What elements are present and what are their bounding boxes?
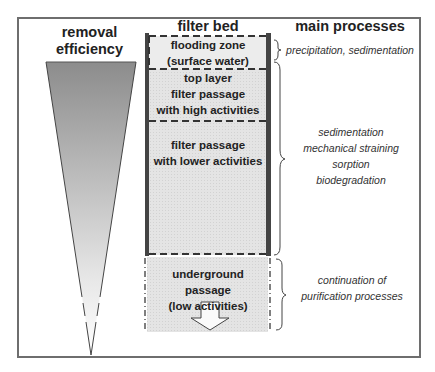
zone-line: flooding zone bbox=[150, 37, 266, 53]
process-filter: sedimentation mechanical straining sorpt… bbox=[284, 124, 418, 188]
process-underground: continuation of purification processes bbox=[286, 272, 418, 304]
zone-line: filter passage bbox=[150, 137, 266, 153]
process-line: sorption bbox=[284, 156, 418, 172]
header-main-processes: main processes bbox=[282, 18, 418, 35]
zone-line: filter passage bbox=[150, 86, 266, 102]
zone-line: (surface water) bbox=[150, 53, 266, 69]
zone-line: top layer bbox=[150, 70, 266, 86]
zone-lower-activities: filter passage with lower activities bbox=[150, 137, 266, 169]
header-filter-bed: filter bed bbox=[148, 18, 268, 35]
process-line: purification processes bbox=[286, 288, 418, 304]
header-line: removal bbox=[22, 24, 157, 41]
process-line: biodegradation bbox=[284, 172, 418, 188]
process-line: mechanical straining bbox=[284, 140, 418, 156]
zone-line: underground passage bbox=[150, 266, 266, 298]
zone-underground: underground passage (low activities) bbox=[150, 266, 266, 314]
process-line: continuation of bbox=[286, 272, 418, 288]
header-line: efficiency bbox=[22, 41, 157, 58]
zone-top-layer: top layer filter passage with high activ… bbox=[150, 70, 266, 118]
header-removal-efficiency: removal efficiency bbox=[22, 24, 157, 58]
zone-flooding: flooding zone (surface water) bbox=[150, 37, 266, 69]
process-line: sedimentation bbox=[284, 124, 418, 140]
zone-line: with high activities bbox=[150, 102, 266, 118]
process-line: precipitation, sedimentation bbox=[282, 43, 418, 57]
efficiency-cone bbox=[46, 62, 136, 355]
process-flooding: precipitation, sedimentation bbox=[282, 43, 418, 57]
zone-line: with lower activities bbox=[150, 153, 266, 169]
zone-line: (low activities) bbox=[150, 298, 266, 314]
